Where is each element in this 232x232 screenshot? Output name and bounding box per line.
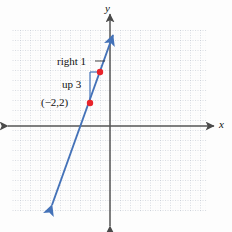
graph-canvas: y x right 1 up 3 (−2,2) <box>0 0 232 232</box>
run-annotation-label: right 1 <box>57 55 86 67</box>
rise-annotation-label: up 3 <box>62 78 81 90</box>
x-axis-label: x <box>219 118 224 130</box>
point-marker <box>87 100 93 106</box>
point-coordinate-label: (−2,2) <box>41 96 68 108</box>
point-marker <box>97 69 103 75</box>
y-axis-label: y <box>105 2 110 14</box>
coordinate-plane <box>0 0 232 232</box>
